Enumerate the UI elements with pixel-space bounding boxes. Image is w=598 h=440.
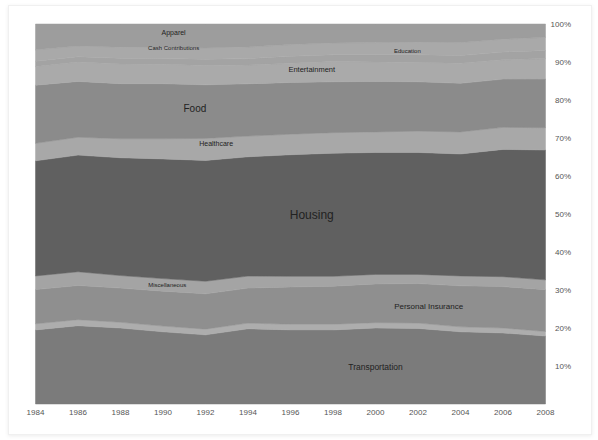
label-entertainment: Entertainment [288, 65, 336, 74]
stacked-area-chart: ApparelCash ContributionsEducationEntert… [0, 0, 598, 440]
y-tick-label: 50% [555, 210, 571, 219]
label-education: Education [394, 48, 421, 54]
y-tick-label: 90% [555, 58, 571, 67]
label-housing: Housing [290, 208, 334, 222]
label-food: Food [183, 103, 206, 114]
x-tick-label: 1988 [112, 408, 130, 417]
label-healthcare: Healthcare [199, 140, 233, 147]
y-tick-label: 60% [555, 172, 571, 181]
area-transportation [36, 326, 546, 404]
label-apparel: Apparel [162, 29, 187, 37]
y-tick-label: 40% [555, 248, 571, 257]
x-tick-label: 2008 [537, 408, 555, 417]
x-tick-label: 1998 [324, 408, 342, 417]
x-tick-label: 1996 [282, 408, 300, 417]
x-tick-label: 1990 [154, 408, 172, 417]
x-tick-label: 1986 [69, 408, 87, 417]
y-tick-label: 100% [551, 20, 571, 29]
y-tick-label: 10% [555, 362, 571, 371]
y-tick-label: 20% [555, 324, 571, 333]
y-axis-ticks: 10%20%30%40%50%60%70%80%90%100% [551, 20, 571, 371]
x-tick-label: 2004 [452, 408, 470, 417]
x-tick-label: 2006 [494, 408, 512, 417]
x-tick-label: 1994 [239, 408, 257, 417]
x-tick-label: 2002 [409, 408, 427, 417]
x-tick-label: 1992 [197, 408, 215, 417]
x-tick-label: 2000 [367, 408, 385, 417]
label-miscellaneous: Miscellaneous [148, 282, 186, 288]
label-cash-contributions: Cash Contributions [148, 45, 199, 51]
x-axis-ticks: 1984198619881990199219941996199820002002… [27, 408, 555, 417]
label-transportation: Transportation [348, 362, 403, 372]
label-personal-insurance: Personal Insurance [394, 302, 463, 311]
y-tick-label: 30% [555, 286, 571, 295]
x-tick-label: 1984 [27, 408, 45, 417]
y-tick-label: 80% [555, 96, 571, 105]
y-tick-label: 70% [555, 134, 571, 143]
